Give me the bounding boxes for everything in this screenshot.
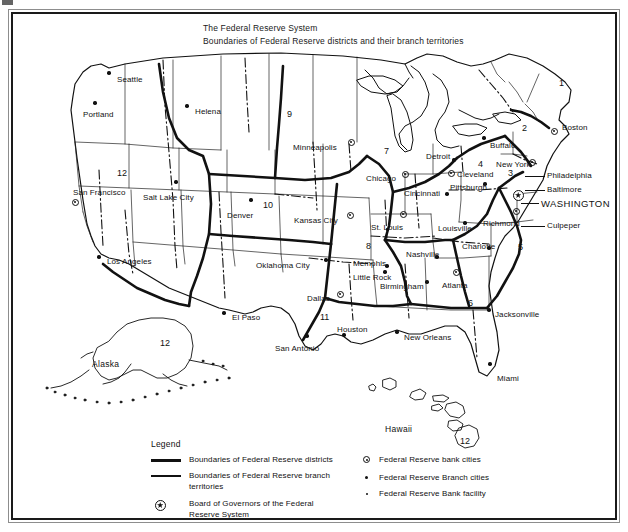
legend-item-label: Federal Reserve Bank facility [379, 489, 486, 500]
city-label-philadelphia: Philadelphia [547, 172, 592, 180]
legend-item-label: Boundaries of Federal Reserve districts [189, 455, 333, 466]
district-number-9: 9 [287, 110, 292, 119]
city-label-seattle: Seattle [117, 76, 143, 84]
branch-boundary-swatch [151, 475, 181, 477]
city-label-san-francisco: San Francisco [73, 189, 125, 197]
legend-item-district-boundary: Boundaries of Federal Reserve districts [151, 455, 333, 466]
city-marker-st-louis [400, 211, 407, 218]
city-label-birmingham: Birmingham [380, 283, 424, 291]
city-marker-minneapolis [348, 139, 355, 146]
city-marker-miami [488, 362, 491, 365]
city-marker-seattle [107, 71, 110, 74]
map-legend: Legend Boundaries of Federal Reserve dis… [151, 439, 571, 517]
city-marker-nashville [435, 255, 438, 258]
city-marker-san-francisco [72, 199, 79, 206]
legend-item-label: Board of Governors of the Federal [189, 499, 314, 510]
city-label-memphis: Memphis [353, 260, 386, 268]
scan-artifact [2, 0, 13, 5]
leader-line-culpeper [521, 226, 545, 227]
city-label-boston: Boston [562, 124, 588, 132]
board-of-governors-star-icon [155, 500, 166, 511]
city-marker-salt-lake-city [174, 180, 177, 183]
city-label-culpeper: Culpeper [547, 222, 580, 230]
city-label-detroit: Detroit [426, 153, 450, 161]
legend-item-bank-facility: Federal Reserve Bank facility [363, 489, 486, 500]
legend-item-board-of-governors: Board of Governors of the Federal Reserv… [151, 499, 314, 518]
district-number-6: 6 [468, 299, 473, 308]
city-marker-little-rock [383, 270, 386, 273]
city-label-los-angeles: Los Angeles [107, 258, 152, 266]
city-marker-kansas-city [347, 212, 354, 219]
city-label-portland: Portland [83, 111, 114, 119]
city-label-chicago: Chicago [366, 175, 396, 183]
federal-reserve-branch-city-icon [365, 476, 368, 479]
city-label-minneapolis: Minneapolis [293, 144, 337, 152]
district-boundary-swatch [151, 459, 181, 462]
city-marker-helena [185, 104, 188, 107]
city-marker-new-york [529, 159, 536, 166]
city-label-new-york: New York [496, 161, 531, 169]
board-of-governors-marker [513, 190, 524, 201]
city-marker-houston [342, 333, 345, 336]
map-stage: The Federal Reserve System Boundaries of… [13, 14, 615, 518]
legend-item-label-cont: territories [189, 482, 330, 493]
city-marker-los-angeles [97, 255, 100, 258]
city-label-helena: Helena [195, 108, 221, 116]
legend-item-label: Federal Reserve Branch cities [379, 473, 489, 484]
district-number-3: 3 [508, 169, 513, 178]
leader-line-baltimore [525, 190, 545, 191]
city-marker-louisville [463, 221, 466, 224]
legend-title: Legend [151, 439, 181, 449]
city-marker-el-paso [222, 311, 225, 314]
city-marker-san-antonio [305, 334, 308, 337]
city-label-buffalo: Buffalo [490, 142, 515, 150]
district-number-2: 2 [522, 124, 527, 133]
district-number-8: 8 [366, 242, 371, 251]
city-marker-buffalo [482, 136, 485, 139]
city-marker-cincinnati [445, 192, 448, 195]
city-marker-jacksonville [487, 308, 490, 311]
district-number-5: 5 [518, 243, 523, 252]
legend-item-bank-cities: Federal Reserve bank cities [363, 455, 481, 466]
city-label-baltimore: Baltimore [547, 186, 582, 194]
district-number-4: 4 [478, 160, 483, 169]
federal-reserve-bank-facility-icon [366, 493, 368, 495]
legend-item-branch-cities: Federal Reserve Branch cities [363, 473, 489, 484]
city-label-san-antonio: San Antonio [275, 345, 319, 353]
inset-label-alaska: Alaska [92, 359, 119, 369]
inset-label-hawaii: Hawaii [385, 424, 412, 434]
district-number-12: 12 [117, 169, 127, 178]
city-marker-chicago [402, 171, 409, 178]
city-marker-pittsburgh [483, 182, 486, 185]
city-label-jacksonville: Jacksonville [495, 311, 539, 319]
city-marker-boston [551, 128, 558, 135]
city-marker-cleveland [448, 170, 455, 177]
city-label-washington: WASHINGTON [541, 199, 610, 209]
map-page: The Federal Reserve System Boundaries of… [0, 0, 628, 532]
city-label-denver: Denver [227, 212, 253, 220]
city-label-salt-lake-city: Salt Lake City [143, 194, 194, 202]
federal-reserve-bank-city-icon [363, 456, 370, 463]
city-label-richmond: Richmond [483, 220, 520, 228]
leader-line-philadelphia [525, 176, 545, 177]
city-label-little-rock: Little Rock [353, 274, 391, 282]
legend-item-label-cont: Reserve System [189, 510, 314, 518]
legend-item-label: Federal Reserve bank cities [379, 455, 481, 466]
city-marker-richmond [513, 208, 520, 215]
city-marker-charlotte [487, 246, 490, 249]
city-marker-denver [249, 198, 252, 201]
city-label-new-orleans: New Orleans [404, 334, 451, 342]
district-number-10: 10 [263, 201, 273, 210]
city-marker-oklahoma-city [324, 258, 327, 261]
city-marker-birmingham [425, 280, 428, 283]
city-label-atlanta: Atlanta [442, 282, 468, 290]
city-label-oklahoma-city: Oklahoma City [256, 262, 310, 270]
district-number-1: 1 [559, 79, 564, 88]
legend-item-label: Boundaries of Federal Reserve branch [189, 471, 330, 482]
city-label-dallas: Dallas [307, 295, 330, 303]
district-number-11: 11 [320, 313, 329, 322]
city-marker-atlanta [453, 269, 460, 276]
district-number-7: 7 [384, 147, 389, 156]
city-label-cleveland: Cleveland [457, 171, 493, 179]
city-label-miami: Miami [497, 375, 519, 383]
